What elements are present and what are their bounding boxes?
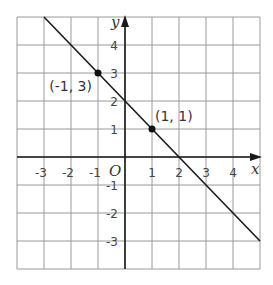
- x-tick-label: -2: [62, 166, 74, 180]
- point-label: (-1, 3): [49, 78, 92, 94]
- x-tick-label: 2: [175, 166, 183, 180]
- point-label: (1, 1): [155, 108, 193, 124]
- x-tick-label: 3: [202, 166, 210, 180]
- x-axis-label: x: [251, 160, 260, 178]
- y-tick-label: 2: [110, 95, 118, 109]
- axes: [17, 15, 262, 269]
- grid-lines: [17, 17, 260, 269]
- y-axis-label: y: [110, 13, 120, 31]
- y-tick-label: -3: [106, 235, 118, 249]
- y-tick-label: 1: [110, 123, 118, 137]
- y-tick-label: 3: [110, 67, 118, 81]
- x-tick-label: 4: [229, 166, 237, 180]
- y-tick-label: 4: [110, 39, 118, 53]
- coordinate-plane: -3-2-112344321-1-2-3 (-1, 3)(1, 1) x y O: [0, 0, 273, 285]
- data-point: [149, 126, 156, 133]
- tick-labels: -3-2-112344321-1-2-3: [35, 39, 237, 249]
- x-tick-label: -1: [89, 166, 101, 180]
- data-point: [95, 70, 102, 77]
- y-tick-label: -2: [106, 207, 118, 221]
- y-tick-label: -1: [106, 179, 118, 193]
- origin-label: O: [109, 162, 121, 180]
- x-tick-label: -3: [35, 166, 47, 180]
- x-tick-label: 1: [148, 166, 156, 180]
